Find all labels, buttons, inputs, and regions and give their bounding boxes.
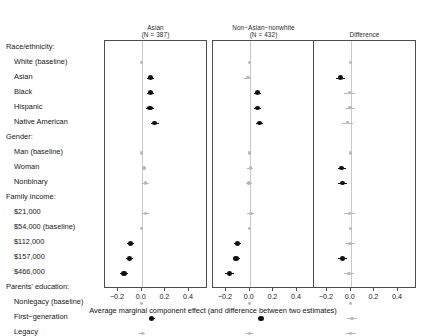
x-axis-tick xyxy=(164,288,165,291)
attribute-level-label: $54,000 (baseline) xyxy=(14,223,75,231)
attribute-level-label: Hispanic xyxy=(14,103,42,111)
x-axis-tick xyxy=(326,288,327,291)
attribute-level-label: Woman xyxy=(14,163,39,171)
attribute-group-header: Gender: xyxy=(6,133,33,141)
attribute-level-label: White (baseline) xyxy=(14,58,67,66)
attribute-level-label: $466,000 xyxy=(14,268,45,276)
point-estimate xyxy=(348,212,351,215)
panel-title-2: Non−Asian−nonwhite(N = 432) xyxy=(212,24,315,39)
x-axis-tick-label: 0.4 xyxy=(291,292,301,301)
point-estimate xyxy=(248,227,251,230)
point-estimate xyxy=(348,242,351,245)
point-estimate xyxy=(127,256,132,261)
zero-reference-line xyxy=(142,41,143,287)
x-axis-tick-label: −0.2 xyxy=(319,292,333,301)
point-estimate xyxy=(140,227,143,230)
point-estimate xyxy=(347,272,350,275)
point-estimate xyxy=(141,332,144,335)
attribute-level-label: Nonbinary xyxy=(14,178,48,186)
plot-panel-2 xyxy=(212,40,315,288)
x-axis-tick-label: 0.4 xyxy=(392,292,402,301)
x-axis-label: Average marginal component effect (and d… xyxy=(0,306,426,315)
attribute-level-label: Asian xyxy=(14,73,33,81)
point-estimate xyxy=(249,166,252,169)
panel-title-label: Difference xyxy=(349,31,379,38)
point-estimate xyxy=(349,302,352,305)
x-axis-tick-label: −0.2 xyxy=(110,292,124,301)
point-estimate xyxy=(349,151,352,154)
attribute-level-label: Black xyxy=(14,88,32,96)
attribute-group-header: Parents' education: xyxy=(6,283,69,291)
point-estimate xyxy=(249,212,252,215)
panel-title-label: Non−Asian−nonwhite xyxy=(232,24,295,31)
attribute-level-label: Man (baseline) xyxy=(14,148,63,156)
panel-sample-size: (N = 387) xyxy=(104,31,207,38)
x-axis-tick xyxy=(272,288,273,291)
point-estimate xyxy=(144,212,147,215)
point-estimate xyxy=(140,151,143,154)
x-axis-tick xyxy=(117,288,118,291)
point-estimate xyxy=(247,181,250,184)
x-axis-tick-label: 0.2 xyxy=(267,292,277,301)
x-axis-tick xyxy=(397,288,398,291)
plot-panel-1 xyxy=(104,40,207,288)
point-estimate xyxy=(149,316,154,321)
x-axis-tick-label: −0.2 xyxy=(218,292,232,301)
point-estimate xyxy=(349,227,352,230)
point-estimate xyxy=(142,166,145,169)
point-estimate xyxy=(248,61,251,64)
point-estimate xyxy=(140,61,143,64)
attribute-level-label: Legacy xyxy=(14,328,38,336)
x-axis-tick-label: 0.0 xyxy=(136,292,146,301)
attribute-level-label: $112,000 xyxy=(14,238,44,246)
point-estimate xyxy=(255,90,260,95)
point-estimate xyxy=(339,166,344,171)
point-estimate xyxy=(121,271,126,276)
x-axis-tick-label: 0.0 xyxy=(244,292,254,301)
point-estimate xyxy=(248,332,251,335)
panel-title-3: Difference xyxy=(313,31,416,38)
point-estimate xyxy=(257,121,262,126)
x-axis-tick-label: 0.2 xyxy=(368,292,378,301)
x-axis-tick xyxy=(225,288,226,291)
point-estimate xyxy=(248,151,251,154)
zero-reference-line xyxy=(351,41,352,287)
x-axis-tick-label: 0.4 xyxy=(183,292,193,301)
point-estimate xyxy=(152,121,157,126)
point-estimate xyxy=(144,181,147,184)
point-estimate xyxy=(346,121,349,124)
point-estimate xyxy=(340,181,345,186)
point-estimate xyxy=(255,106,260,111)
point-estimate xyxy=(148,90,153,95)
x-axis-tick-label: 0.2 xyxy=(159,292,169,301)
point-estimate xyxy=(128,241,133,246)
point-estimate xyxy=(248,302,251,305)
panel-title-label: Asian xyxy=(147,24,164,31)
attribute-level-label: Native American xyxy=(14,118,68,126)
x-axis-tick xyxy=(249,288,250,291)
plot-panel-3 xyxy=(313,40,416,288)
attribute-level-label: $157,000 xyxy=(14,253,45,261)
point-estimate xyxy=(350,317,353,320)
point-estimate xyxy=(338,75,343,80)
point-estimate xyxy=(235,241,240,246)
point-estimate xyxy=(227,271,232,276)
point-estimate xyxy=(147,106,152,111)
attribute-level-label: $21,000 xyxy=(14,208,41,216)
x-axis-tick xyxy=(373,288,374,291)
x-axis-tick xyxy=(141,288,142,291)
point-estimate xyxy=(140,302,143,305)
point-estimate xyxy=(148,75,153,80)
x-axis-tick xyxy=(296,288,297,291)
x-axis-tick xyxy=(188,288,189,291)
x-axis-tick-label: 0.0 xyxy=(345,292,355,301)
panel-sample-size: (N = 432) xyxy=(212,31,315,38)
point-estimate xyxy=(258,316,263,321)
attribute-group-header: Family income: xyxy=(6,193,56,201)
point-estimate xyxy=(340,256,345,261)
point-estimate xyxy=(349,61,352,64)
point-estimate xyxy=(246,76,249,79)
point-estimate xyxy=(349,332,352,335)
x-axis-tick xyxy=(350,288,351,291)
